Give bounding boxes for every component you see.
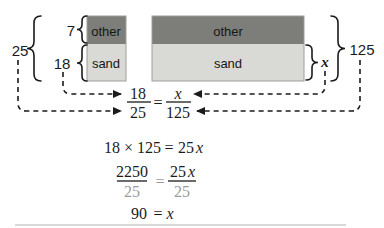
equals-sign: = <box>164 139 173 156</box>
proportion-numerator-right: x <box>173 85 181 102</box>
step3-equation: 90 = x <box>131 205 174 222</box>
sand-brace <box>77 45 87 81</box>
large-bar-other-label: other <box>213 24 243 39</box>
step1-lhs: 18 × 125 <box>104 139 161 156</box>
small-bar-sand-label: sand <box>92 56 120 71</box>
step1-equation: 18 × 125 = 25 x <box>104 139 203 156</box>
step2-equation: 2250 25 = 25 x 25 <box>116 163 196 200</box>
sand-value-label: 18 <box>54 55 71 72</box>
x-brace <box>306 45 318 80</box>
step2-denominator-left-cancelled: 25 <box>124 183 140 200</box>
proportion-diagram-svg: other sand other sand 25 7 18 x 125 18 2… <box>0 0 384 228</box>
right-total-label: 125 <box>349 41 374 58</box>
step1-rhs-coefficient: 25 <box>178 139 194 156</box>
proportion-figure: other sand other sand 25 7 18 x 125 18 2… <box>0 0 384 228</box>
other-value-label: 7 <box>67 22 75 39</box>
step3-rhs: x <box>165 205 173 222</box>
proportion-denominator-left: 25 <box>130 104 146 121</box>
left-total-brace <box>27 16 41 81</box>
small-bar: other sand <box>87 16 126 81</box>
small-bar-other-label: other <box>91 24 121 39</box>
proportion-numerator-left: 18 <box>130 85 146 102</box>
equals-sign: = <box>153 94 162 111</box>
equals-sign: = <box>155 173 164 190</box>
step3-lhs: 90 <box>131 205 147 222</box>
step2-numerator-right-coefficient: 25 <box>170 163 186 180</box>
other-brace <box>77 16 87 43</box>
x-value-label: x <box>320 54 329 70</box>
step2-numerator-right-variable: x <box>187 163 195 180</box>
left-total-label: 25 <box>12 42 29 59</box>
large-bar: other sand <box>152 16 304 81</box>
step2-denominator-right-cancelled: 25 <box>174 183 190 200</box>
step1-rhs-variable: x <box>195 139 203 156</box>
step2-numerator-left: 2250 <box>116 163 148 180</box>
right-total-brace <box>331 16 345 81</box>
proportion-equation: 18 25 = x 125 <box>127 85 191 121</box>
equals-sign: = <box>153 205 162 222</box>
large-bar-sand-label: sand <box>214 56 242 71</box>
proportion-denominator-right: 125 <box>166 104 190 121</box>
